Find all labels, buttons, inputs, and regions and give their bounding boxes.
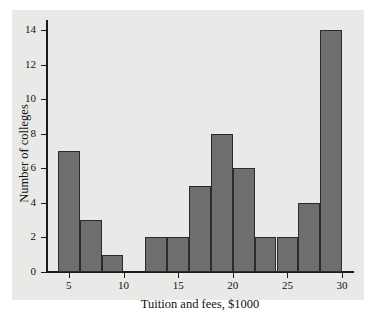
y-axis-title: Number of colleges — [17, 64, 32, 244]
y-tick-mark — [41, 272, 46, 273]
x-tick-label: 15 — [163, 280, 193, 291]
histogram-bar — [277, 237, 299, 272]
histogram-bar — [211, 134, 233, 272]
x-tick-mark — [178, 273, 179, 278]
x-tick-mark — [287, 273, 288, 278]
y-tick-mark — [41, 168, 46, 169]
histogram-figure: 02468101214 51015202530 Tuition and fees… — [0, 0, 378, 326]
histogram-bar — [233, 168, 255, 272]
x-tick-label: 25 — [272, 280, 302, 291]
histogram-bar — [145, 237, 167, 272]
y-tick-label: 0 — [14, 266, 36, 277]
histogram-bar — [167, 237, 189, 272]
x-tick-mark — [233, 273, 234, 278]
y-tick-mark — [41, 30, 46, 31]
y-tick-mark — [41, 65, 46, 66]
histogram-bar — [80, 220, 102, 272]
histogram-bar — [298, 203, 320, 272]
x-tick-mark — [69, 273, 70, 278]
histogram-bar — [102, 255, 124, 272]
y-tick-mark — [41, 134, 46, 135]
x-axis-title: Tuition and fees, $1000 — [47, 297, 353, 312]
y-tick-mark — [41, 99, 46, 100]
x-tick-label: 20 — [218, 280, 248, 291]
x-tick-label: 5 — [54, 280, 84, 291]
histogram-bar — [189, 186, 211, 272]
histogram-bar — [255, 237, 277, 272]
histogram-bar — [320, 30, 342, 272]
histogram-bars — [47, 20, 353, 272]
y-tick-label: 14 — [14, 24, 36, 35]
histogram-bar — [58, 151, 80, 272]
x-tick-label: 30 — [327, 280, 357, 291]
x-tick-mark — [124, 273, 125, 278]
x-tick-mark — [342, 273, 343, 278]
x-tick-label: 10 — [109, 280, 139, 291]
y-tick-mark — [41, 237, 46, 238]
y-tick-mark — [41, 203, 46, 204]
